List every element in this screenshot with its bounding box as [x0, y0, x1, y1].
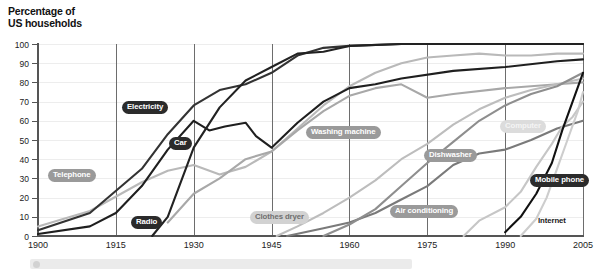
y-tick-label: 90 [0, 59, 29, 69]
footer-dot-icon [33, 261, 40, 268]
y-tick-mark [32, 140, 37, 141]
y-tick-mark [32, 82, 37, 83]
x-tick-label: 1900 [18, 240, 58, 250]
series-label-dishwasher: Dishwasher [424, 149, 477, 162]
series-label-radio: Radio [131, 216, 162, 229]
series-line-mobile-phone [505, 73, 583, 232]
series-lines [38, 44, 583, 236]
y-tick-mark [32, 102, 37, 103]
series-line-car [38, 59, 583, 234]
series-label-air-conditioning: Air conditioning [390, 205, 458, 218]
y-tick-mark [32, 63, 37, 64]
series-line-radio [152, 44, 583, 236]
y-tick-label: 70 [0, 97, 29, 107]
y-tick-mark [32, 236, 37, 237]
x-tick-label: 1945 [252, 240, 292, 250]
y-tick-label: 20 [0, 193, 29, 203]
series-label-computer: Computer [500, 120, 546, 133]
series-label-internet: Internet [533, 215, 571, 228]
plot-area [38, 44, 583, 236]
series-label-telephone: Telephone [48, 169, 96, 182]
y-tick-mark [32, 159, 37, 160]
y-tick-label: 40 [0, 155, 29, 165]
y-tick-label: 100 [0, 40, 29, 50]
y-tick-mark [32, 198, 37, 199]
y-tick-label: 60 [0, 116, 29, 126]
x-tick-label: 1975 [407, 240, 447, 250]
series-line-telephone [38, 54, 583, 227]
chart-root: Percentage of US households 010203040506… [0, 0, 603, 269]
x-tick-label: 1915 [96, 240, 136, 250]
y-tick-mark [32, 121, 37, 122]
y-tick-label: 30 [0, 174, 29, 184]
series-label-mobile-phone: Mobile phone [530, 174, 589, 187]
x-tick-label: 1930 [174, 240, 214, 250]
x-tick-label: 1960 [329, 240, 369, 250]
series-label-clothes-dryer: Clothes dryer [250, 211, 309, 224]
chart-title: Percentage of US households [8, 6, 128, 29]
series-label-washing-machine: Washing machine [306, 126, 381, 139]
series-label-electricity: Electricity [122, 101, 168, 114]
y-tick-label: 50 [0, 136, 29, 146]
x-tick-label: 2005 [563, 240, 603, 250]
y-tick-mark [32, 178, 37, 179]
series-label-car: Car [169, 137, 192, 150]
y-tick-mark [32, 44, 37, 45]
y-tick-label: 80 [0, 78, 29, 88]
y-tick-label: 10 [0, 212, 29, 222]
x-tick-label: 1990 [485, 240, 525, 250]
y-tick-mark [32, 217, 37, 218]
series-line-washing-machine [168, 82, 583, 222]
footer-bar [30, 259, 412, 269]
